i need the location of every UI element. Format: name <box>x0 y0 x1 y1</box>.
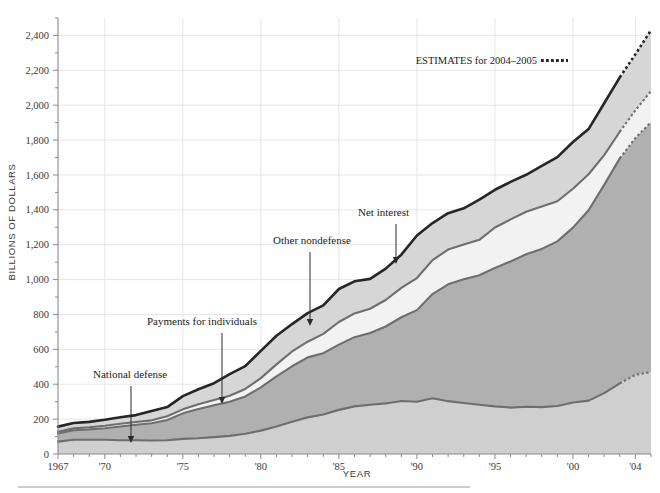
annotation-label-other-nondefense: Other nondefense <box>273 234 351 246</box>
y-axis-title: BILLIONS OF DOLLARS <box>6 164 17 281</box>
x-tick-label: '70 <box>99 461 111 472</box>
annotation-label-payments-for-individuals: Payments for individuals <box>147 315 257 327</box>
y-tick-label: 2,400 <box>25 30 49 41</box>
x-tick-label: '04 <box>629 461 642 472</box>
y-tick-label: 0 <box>44 449 49 460</box>
y-tick-label: 200 <box>33 414 49 425</box>
annotation-label-net-interest: Net interest <box>358 206 409 218</box>
y-tick-label: 2,200 <box>25 65 49 76</box>
x-tick-label: '00 <box>567 461 579 472</box>
x-tick-label: '75 <box>177 461 189 472</box>
x-tick-label: '95 <box>489 461 501 472</box>
y-tick-label: 800 <box>33 309 49 320</box>
y-tick-label: 1,000 <box>25 274 49 285</box>
x-tick-label: '90 <box>411 461 423 472</box>
expenditures-stacked-area-chart: 02004006008001,0001,2001,4001,6001,8002,… <box>0 0 660 493</box>
estimates-legend-label: ESTIMATES for 2004–2005 <box>416 55 537 66</box>
x-tick-label: 1967 <box>48 461 69 472</box>
y-tick-label: 1,200 <box>25 239 49 250</box>
x-tick-label: '80 <box>255 461 267 472</box>
y-tick-label: 1,400 <box>25 204 49 215</box>
x-axis-title: YEAR <box>343 468 371 479</box>
y-tick-label: 1,800 <box>25 135 49 146</box>
chart-figure: 02004006008001,0001,2001,4001,6001,8002,… <box>0 0 660 493</box>
y-tick-label: 2,000 <box>25 100 49 111</box>
y-tick-label: 400 <box>33 379 49 390</box>
annotation-label-national-defense: National defense <box>93 368 167 380</box>
y-tick-label: 1,600 <box>25 170 49 181</box>
y-tick-label: 600 <box>33 344 49 355</box>
